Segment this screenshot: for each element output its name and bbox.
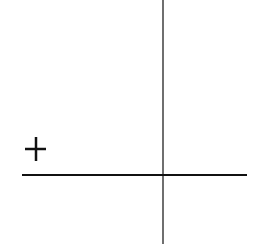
horizontal-axis-line	[22, 174, 247, 176]
plus-sign-icon: +	[24, 134, 48, 164]
vertical-axis-line	[162, 0, 164, 244]
